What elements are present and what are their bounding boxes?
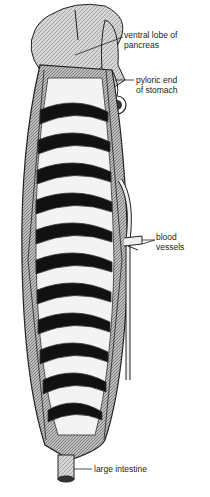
large-intestine <box>58 455 74 482</box>
label-large-intestine: large intestine <box>94 464 147 474</box>
stomach-body <box>22 65 128 460</box>
label-blood-vessels: blood vessels <box>156 232 184 252</box>
label-pancreas: ventral lobe of pancreas <box>124 30 177 50</box>
label-pyloric-end: pyloric end of stomach <box>136 75 178 95</box>
